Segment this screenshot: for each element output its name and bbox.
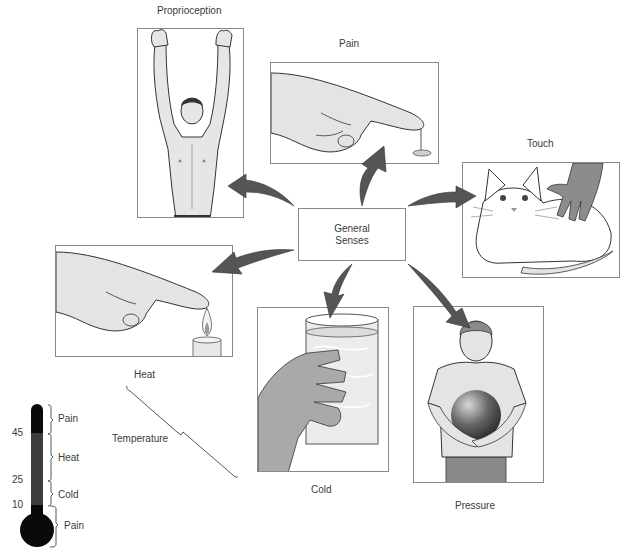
thermometer-icon	[20, 404, 54, 547]
arrow-to-touch-icon	[408, 186, 476, 208]
thermometer-range-heat: Heat	[58, 452, 79, 463]
arrows-layer	[0, 0, 636, 558]
temperature-label: Temperature	[112, 433, 168, 444]
thermometer-tick-45: 45	[12, 427, 23, 438]
thermometer-tick-10: 10	[12, 499, 23, 510]
thermometer-tick-25: 25	[12, 474, 23, 485]
thermometer-range-pain-low: Pain	[64, 520, 84, 531]
thermometer-range-cold: Cold	[58, 489, 79, 500]
arrow-to-proprioception-icon	[228, 174, 294, 206]
temperature-heat-label: Heat	[134, 369, 155, 380]
arrow-to-cold-icon	[324, 264, 352, 318]
arrow-to-heat-icon	[212, 249, 294, 274]
arrow-to-pressure-icon	[408, 264, 470, 328]
temperature-bracket	[127, 386, 238, 477]
thermometer-range-pain-high: Pain	[58, 413, 78, 424]
arrow-to-pain-icon	[360, 146, 386, 206]
